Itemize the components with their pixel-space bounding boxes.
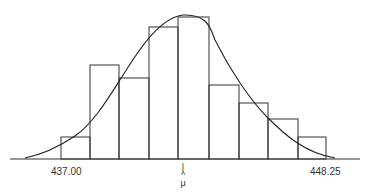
histogram-bar <box>149 27 178 159</box>
x-tick-left: 437.00 <box>51 166 82 177</box>
histogram-bars <box>61 17 326 159</box>
mean-marker: | ^ μ <box>178 163 188 187</box>
histogram-bar <box>119 78 149 159</box>
histogram-bar <box>61 137 90 159</box>
histogram-bar <box>239 103 268 159</box>
histogram-bar <box>268 119 298 159</box>
histogram-bar <box>90 65 119 159</box>
x-tick-right: 448.25 <box>310 166 341 177</box>
histogram-bar <box>298 137 326 159</box>
histogram-bar <box>209 85 239 159</box>
histogram-bar <box>178 17 209 159</box>
mean-mu: μ <box>178 179 188 187</box>
